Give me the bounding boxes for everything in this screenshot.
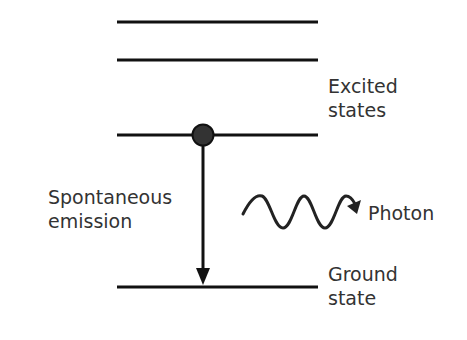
spontaneous-emission-label-line2: emission: [48, 210, 132, 232]
emission-arrowhead-icon: [196, 268, 210, 285]
ground-state-label-line1: Ground: [328, 263, 398, 285]
photon-label: Photon: [368, 202, 434, 224]
energy-level-diagram: Excited states Spontaneous emission Phot…: [0, 0, 467, 340]
electron-icon: [193, 125, 214, 146]
ground-state-label-line2: state: [328, 287, 376, 309]
excited-states-label-line1: Excited: [328, 75, 398, 97]
excited-states-label-line2: states: [328, 99, 386, 121]
photon-wave-icon: [243, 196, 355, 228]
spontaneous-emission-label-line1: Spontaneous: [48, 186, 172, 208]
